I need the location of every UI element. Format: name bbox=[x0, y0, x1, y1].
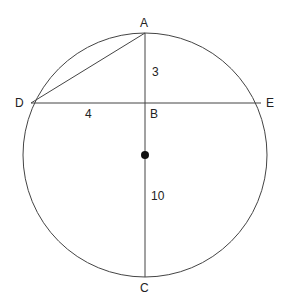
point-label-e: E bbox=[266, 97, 274, 109]
length-label-db: 4 bbox=[85, 108, 92, 120]
point-label-a: A bbox=[140, 17, 148, 29]
center-dot bbox=[141, 151, 149, 159]
length-label-ab: 3 bbox=[152, 66, 159, 78]
circle-diagram bbox=[0, 0, 291, 303]
length-label-bc: 10 bbox=[151, 190, 164, 202]
segment-ad bbox=[31, 33, 145, 103]
point-label-b: B bbox=[150, 108, 158, 120]
point-label-d: D bbox=[15, 97, 24, 109]
point-label-c: C bbox=[140, 282, 149, 294]
